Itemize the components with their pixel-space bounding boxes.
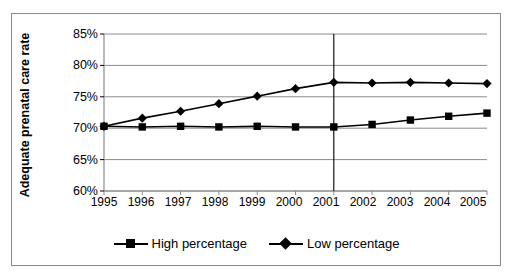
x-tick-label: 2004 <box>424 195 451 209</box>
chart-figure: Adequate prenatal care rate 85% 80% 75% … <box>0 0 513 278</box>
x-tick-label: 2005 <box>460 195 487 209</box>
x-tick-label: 2001 <box>313 195 340 209</box>
x-tick-label: 2003 <box>387 195 414 209</box>
legend-label: Low percentage <box>307 236 400 251</box>
x-tick-label: 1995 <box>91 195 118 209</box>
legend-item-high-percentage: High percentage <box>114 236 247 251</box>
legend-label: High percentage <box>152 236 247 251</box>
x-tick-label: 1997 <box>165 195 192 209</box>
chart-legend: High percentage Low percentage <box>0 236 513 251</box>
square-marker-icon <box>114 238 148 250</box>
x-tick-label: 2002 <box>350 195 377 209</box>
x-tick-label: 2000 <box>276 195 303 209</box>
legend-item-low-percentage: Low percentage <box>269 236 400 251</box>
x-tick-label: 1996 <box>128 195 155 209</box>
diamond-marker-icon <box>269 238 303 250</box>
x-tick-label: 1999 <box>239 195 266 209</box>
x-tick-label: 1998 <box>202 195 229 209</box>
